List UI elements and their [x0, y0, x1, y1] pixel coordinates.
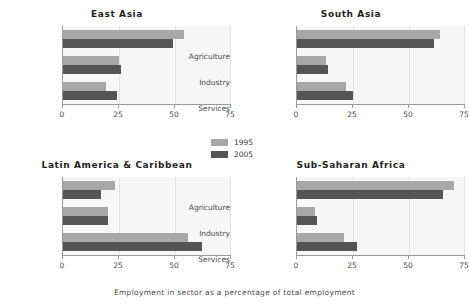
x-tick-0: [62, 104, 63, 108]
x-tick-25: [352, 104, 353, 108]
chart-panel-latin-america-caribbean: Latin America & Caribbean Agriculture In…: [0, 155, 234, 285]
x-axis-line: [296, 104, 465, 105]
bar-1995: [297, 56, 326, 65]
bar-group-agriculture: [63, 177, 231, 203]
bar-2005: [63, 91, 117, 100]
panel-title: Sub-Saharan Africa: [234, 160, 468, 170]
chart-panel-east-asia: East Asia Agriculture Industry Services: [0, 4, 234, 134]
x-tick-75: [230, 104, 231, 108]
chart-panel-south-asia: South Asia Agriculture Industry Services: [234, 4, 468, 134]
category-label-services: Services: [110, 104, 230, 113]
bar-group-services: [297, 78, 465, 104]
legend-label-2005: 2005: [234, 150, 253, 159]
panel-title: South Asia: [234, 9, 468, 19]
legend-item-2005: 2005: [211, 149, 281, 159]
legend-label-1995: 1995: [234, 138, 253, 147]
multi-panel-bar-chart: East Asia Agriculture Industry Services: [0, 0, 469, 305]
bar-2005: [63, 39, 173, 48]
x-axis-caption: Employment in sector as a percentage of …: [0, 288, 469, 297]
bar-group-agriculture: [63, 26, 231, 52]
bar-1995: [63, 82, 106, 91]
category-label-agriculture: Agriculture: [110, 203, 230, 212]
chart-legend: 1995 2005: [211, 137, 281, 161]
bar-group-agriculture: [297, 26, 465, 52]
category-label-services: Services: [110, 255, 230, 264]
chart-panel-sub-saharan-africa: Sub-Saharan Africa Agriculture Industry …: [234, 155, 468, 285]
x-tick-label-75: 75: [459, 110, 469, 119]
x-tick-label-75: 75: [459, 261, 469, 270]
bar-group-services: [297, 229, 465, 255]
x-tick-50: [408, 104, 409, 108]
category-label-industry: Industry: [110, 78, 230, 87]
bar-2005: [297, 190, 443, 199]
x-tick-75: [230, 255, 231, 259]
plot-area: [296, 177, 465, 255]
x-tick-75: [464, 255, 465, 259]
x-tick-label-50: 50: [403, 110, 413, 119]
legend-swatch-2005-icon: [211, 151, 228, 158]
bar-1995: [63, 207, 108, 216]
x-tick-25: [352, 255, 353, 259]
panel-title: Latin America & Caribbean: [0, 160, 234, 170]
x-tick-label-0: 0: [60, 110, 65, 119]
x-tick-0: [296, 255, 297, 259]
bar-2005: [297, 242, 357, 251]
bar-group-industry: [297, 203, 465, 229]
x-tick-label-25: 25: [347, 261, 357, 270]
x-axis-line: [296, 255, 465, 256]
bar-2005: [297, 65, 328, 74]
bar-1995: [297, 233, 344, 242]
x-tick-label-0: 0: [60, 261, 65, 270]
x-tick-50: [408, 255, 409, 259]
bar-group-agriculture: [297, 177, 465, 203]
bar-2005: [297, 91, 353, 100]
x-tick-label-0: 0: [294, 261, 299, 270]
bar-2005: [297, 216, 317, 225]
panel-title: East Asia: [0, 9, 234, 19]
bar-2005: [63, 65, 121, 74]
x-tick-0: [62, 255, 63, 259]
bar-2005: [63, 242, 202, 251]
bar-group-industry: [297, 52, 465, 78]
plot-area: [62, 26, 231, 104]
legend-swatch-1995-icon: [211, 139, 228, 146]
bar-1995: [297, 82, 346, 91]
bar-1995: [297, 207, 315, 216]
category-label-industry: Industry: [110, 229, 230, 238]
plot-area: [62, 177, 231, 255]
category-label-agriculture: Agriculture: [110, 52, 230, 61]
bar-2005: [297, 39, 434, 48]
bar-2005: [63, 216, 108, 225]
x-tick-75: [464, 104, 465, 108]
bar-1995: [63, 30, 184, 39]
x-tick-label-25: 25: [347, 110, 357, 119]
bar-1995: [63, 181, 115, 190]
x-tick-label-0: 0: [294, 110, 299, 119]
bar-1995: [297, 30, 440, 39]
legend-item-1995: 1995: [211, 137, 281, 147]
x-tick-label-50: 50: [403, 261, 413, 270]
plot-area: [296, 26, 465, 104]
bar-2005: [63, 190, 101, 199]
x-tick-0: [296, 104, 297, 108]
bar-1995: [297, 181, 454, 190]
